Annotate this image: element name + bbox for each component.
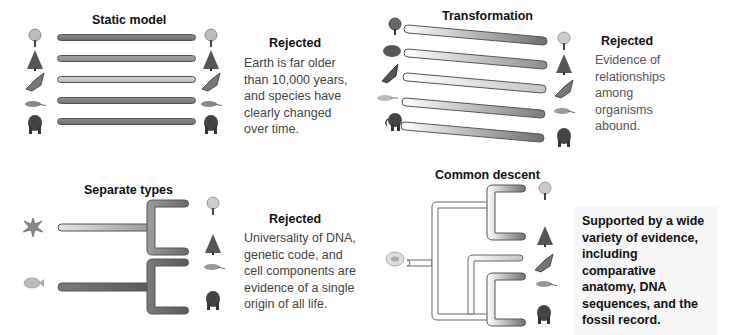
lineage-bar-1 [57,34,196,41]
gorilla-icon [202,289,224,311]
static-model-verdict: Rejected [269,36,321,50]
lizard-icon [535,273,557,295]
transformation-bars [405,20,565,150]
flowering-plant-icon [24,27,46,49]
conifer-icon [24,49,46,71]
gorilla-icon [24,113,46,135]
single-cell-icon [384,248,406,270]
flowering-plant-icon [202,195,224,217]
common-descent-tree [410,185,545,330]
moth-icon [380,62,402,84]
flowering-plant-icon [534,180,556,202]
lineage-bar-4 [57,97,196,104]
coral-plant-icon [22,216,44,238]
separate-types-tree [55,200,200,315]
butterfly-icon [553,78,575,100]
early-lizard-icon [376,86,398,108]
transformation-verdict: Rejected [601,34,653,48]
butterfly-icon [24,71,46,93]
lineage-bar-2 [57,55,196,62]
lineage-bar-3 [57,76,196,83]
transformation-explanation: Evidence of relationships among organism… [595,52,665,135]
conifer-icon [553,53,575,75]
lizard-icon [24,93,46,115]
flowering-plant-icon [200,27,222,49]
lizard-icon [553,100,575,122]
gorilla-icon [553,126,575,148]
fish-icon [22,272,44,294]
common-descent-explanation: Supported by a wide variety of evidence,… [574,207,718,335]
lizard-icon [203,256,225,278]
flowering-plant-icon [553,30,575,52]
butterfly-icon [533,252,555,274]
conifer-icon [534,225,556,247]
mammoth-icon [382,110,404,132]
lineage-bar-5 [57,118,196,125]
static-model-explanation: Earth is far older than 10,000 years, an… [244,55,348,138]
gorilla-icon [533,303,555,325]
separate-types-verdict: Rejected [269,212,321,226]
gorilla-icon [200,113,222,135]
conifer-icon [200,49,222,71]
butterfly-icon [200,71,222,93]
common-descent-title: Common descent [435,168,540,182]
conifer-icon [202,233,224,255]
flower-icon [384,15,406,37]
static-model-title: Static model [92,13,166,27]
separate-types-title: Separate types [84,183,173,197]
shrub-icon [381,38,403,60]
lizard-icon [200,93,222,115]
separate-types-explanation: Universality of DNA, genetic code, and c… [244,230,356,313]
